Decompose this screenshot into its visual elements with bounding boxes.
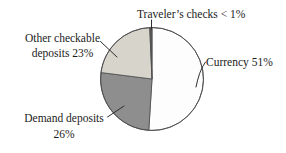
pie-chart-figure: Traveler’s checks < 1% Currency 51% Othe… bbox=[0, 0, 286, 153]
label-travelers-checks: Traveler’s checks < 1% bbox=[137, 7, 245, 22]
label-demand-deposits-line2: 26% bbox=[13, 126, 115, 142]
label-other-checkable-line1: Other checkable bbox=[14, 31, 111, 46]
pie-slices bbox=[101, 28, 204, 131]
label-currency: Currency 51% bbox=[206, 55, 273, 70]
label-demand-deposits: Demand deposits 26% bbox=[13, 110, 115, 142]
label-demand-deposits-line1: Demand deposits bbox=[13, 110, 115, 126]
slice-currency bbox=[149, 28, 204, 131]
label-other-checkable: Other checkable deposits 23% bbox=[14, 31, 111, 61]
label-other-checkable-line2: deposits 23% bbox=[14, 46, 111, 61]
